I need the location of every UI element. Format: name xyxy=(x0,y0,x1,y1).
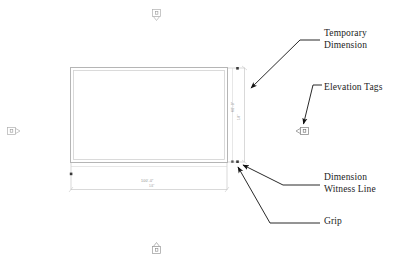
grip-bottom-right[interactable] xyxy=(236,160,239,163)
elevation-tag-right-pointer-icon xyxy=(296,128,300,133)
leader-temporary-dimension-diagonal xyxy=(251,40,300,88)
dimension-subtext-horizontal: 1/4" xyxy=(149,184,154,188)
leader-witness-diagonal xyxy=(243,165,283,185)
annotation-label-temporary-dimension: Temporary Dimension xyxy=(324,28,367,51)
elevation-tag-left-pointer-icon xyxy=(16,128,21,133)
annotation-label-grip: Grip xyxy=(324,216,342,228)
dimension-text-vertical[interactable]: 60'-0" xyxy=(231,102,235,112)
dimension-subtext-vertical: 1/4" xyxy=(237,115,241,120)
elevation-tag-right-body xyxy=(301,128,309,135)
grip-mid-right[interactable] xyxy=(231,160,233,162)
elevation-tag-right[interactable] xyxy=(296,128,309,135)
floor-plan-rectangle[interactable] xyxy=(71,68,228,163)
elevation-tag-bottom-pointer-icon xyxy=(153,243,159,247)
annotation-label-elevation-tags: Elevation Tags xyxy=(324,82,383,94)
leader-temporary-dimension xyxy=(251,40,320,88)
elevation-tag-top-pointer-icon xyxy=(153,17,159,21)
leader-dimension-witness-line xyxy=(243,165,320,185)
wall-outer-line xyxy=(71,68,228,163)
dimension-text-horizontal[interactable]: 100'-0" xyxy=(141,179,154,183)
leader-elevation-tags-diagonal xyxy=(304,85,314,124)
leader-grip xyxy=(238,167,320,223)
elevation-tag-top[interactable] xyxy=(153,10,161,21)
wall-inner-line xyxy=(74,71,225,160)
leader-grip-diagonal xyxy=(238,167,270,223)
elevation-tag-top-body xyxy=(153,10,161,17)
elevation-tag-left[interactable] xyxy=(8,128,21,135)
grip-top-right[interactable] xyxy=(236,67,239,70)
elevation-tag-bottom-body xyxy=(153,247,161,254)
elevation-tag-left-body xyxy=(8,128,16,135)
leader-elevation-tags xyxy=(304,85,323,124)
grip-bottom-left[interactable] xyxy=(70,173,73,176)
elevation-tag-bottom[interactable] xyxy=(153,243,161,254)
annotation-label-dimension-witness-line: Dimension Witness Line xyxy=(324,172,376,195)
revit-plan-view: 100'-0" 1/4" 60'-0" 1/4" Temporary Dimen… xyxy=(0,0,407,269)
